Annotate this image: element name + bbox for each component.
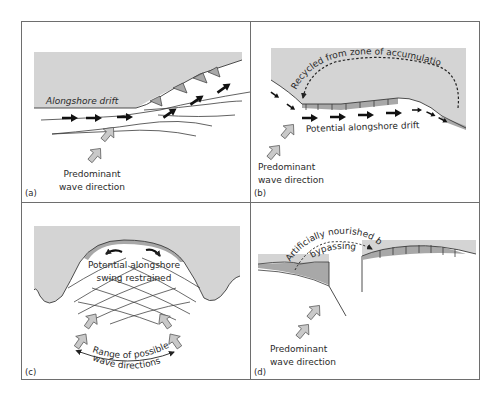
wave-arrow-icon — [264, 141, 285, 163]
wave-label-line1: Predominant — [270, 344, 328, 354]
panel-label-b: (b) — [254, 188, 266, 198]
panel-label-a: (a) — [25, 188, 37, 198]
wave-arrow-icon — [71, 330, 92, 351]
nourish-label-line2: bypassing — [308, 241, 357, 260]
potential-drift-label: Potential alongshore drift — [306, 120, 420, 134]
wave-arrow-icon — [154, 310, 175, 331]
breakwater — [329, 262, 346, 316]
panel-label-d: (d) — [254, 367, 266, 377]
wave-label-line1: Predominant — [63, 169, 121, 179]
wave-arrow-icon — [85, 144, 106, 166]
wave-arrow-icon — [293, 320, 314, 342]
wave-arrow-icon — [278, 120, 299, 142]
wave-label-line1: Predominant — [258, 162, 316, 172]
panel-c: Potential alongshore swing restrained Ra… — [25, 226, 240, 377]
panel-a: Alongshore drift Predominant wave direct… — [25, 52, 250, 198]
wave-arrow-icon — [304, 301, 325, 323]
wave-arrow-icon — [81, 310, 102, 331]
wave-label-line2: wave direction — [59, 182, 125, 192]
panel-label-c: (c) — [25, 367, 36, 377]
alongshore-drift-label: Alongshore drift — [45, 96, 119, 106]
wave-label-line2: wave direction — [270, 357, 336, 367]
wave-label-line2: wave direction — [258, 175, 324, 185]
coastal-drift-diagram: Alongshore drift Predominant wave direct… — [0, 0, 500, 398]
wave-arrow-icon — [98, 123, 119, 145]
swing-arrow-left — [106, 250, 122, 254]
swing-arrow-right — [146, 250, 160, 256]
